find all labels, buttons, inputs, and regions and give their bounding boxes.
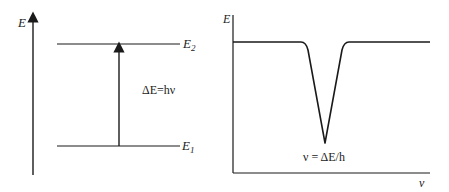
spectrum-x-label: ν	[419, 176, 425, 190]
transition-label: ΔE=hν	[142, 83, 176, 97]
upper-level-label: E2	[182, 36, 196, 53]
diagram-canvas: E E2 E1 ΔE=hν E ν ν = ΔE/h	[0, 0, 449, 192]
energy-axis-label: E	[17, 15, 26, 30]
peak-label: ν = ΔE/h	[303, 150, 345, 164]
lower-level-label: E1	[181, 138, 194, 155]
absorption-curve	[233, 42, 430, 143]
energy-level-diagram: E E2 E1 ΔE=hν	[17, 15, 196, 175]
spectrum-y-label: E	[222, 12, 231, 26]
absorption-spectrum: E ν ν = ΔE/h	[222, 12, 430, 190]
